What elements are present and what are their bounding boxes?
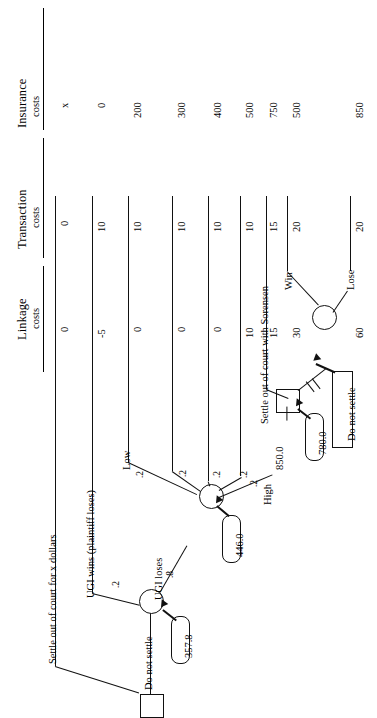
edge-prob-award-3: .2 (213, 471, 223, 478)
edge-prob-ugi-wins: .2 (112, 581, 122, 588)
column-header-transaction: Transaction (16, 189, 29, 249)
outcome-line-3 (128, 196, 129, 462)
pruned-label-leader (316, 363, 336, 373)
edge-prob-award-4: .2 (240, 471, 250, 478)
cell-linkage-9: 60 (355, 328, 366, 339)
outcome-line-6 (240, 196, 241, 476)
cell-insurance-4: 300 (177, 102, 188, 118)
edge-award-low (128, 462, 197, 495)
cell-insurance-6: 500 (245, 102, 256, 118)
header-rule-insurance (43, 8, 44, 130)
ev-leader-trial (163, 609, 177, 621)
column-header-linkage: Linkage (16, 298, 29, 340)
edge-label-award-high: High (263, 484, 274, 505)
prune-slash-2 (311, 378, 320, 389)
column-header-linkage-sub: costs (31, 308, 42, 329)
edge-label-root-do-not-settle: Do not settle (144, 636, 155, 690)
edge-settle-sorensen-stub (286, 407, 287, 421)
edge-label-sorensen-win: Win (284, 272, 295, 290)
cell-insurance-5: 400 (213, 102, 224, 118)
column-header-insurance: Insurance (16, 79, 29, 128)
ev-value-trial: 357.8 (184, 634, 195, 658)
cell-linkage-5: 0 (213, 327, 224, 332)
cell-insurance-2: 0 (97, 103, 108, 108)
edge-prob-award-1: .2 (136, 471, 146, 478)
prune-slash-1 (305, 381, 314, 392)
cell-transaction-9: 20 (355, 222, 366, 233)
cell-linkage-7: 15 (269, 328, 280, 339)
pruned-branch-label: Do not settle (347, 387, 358, 441)
outcome-line-8 (287, 196, 288, 271)
outcome-line-5 (208, 196, 209, 481)
cell-linkage-8: 30 (292, 328, 303, 339)
outcome-line-4 (172, 196, 173, 471)
edge-label-sorensen-lose: Lose (346, 270, 357, 290)
root-decision-node[interactable] (140, 694, 164, 718)
edge-sorensen-lose (333, 291, 349, 313)
edge-prob-award-2: .2 (179, 470, 189, 477)
cell-transaction-1: 0 (60, 221, 71, 226)
cell-insurance-1: x (60, 103, 71, 108)
cell-insurance-9: 850 (355, 102, 366, 118)
edge-prob-ugi-loses: .8 (166, 571, 176, 578)
edge-label-root-settle: Settle out of court for x dollars (48, 535, 59, 664)
edge-label-settle-sorensen: Settle out of court with Sorensen (260, 286, 271, 424)
cell-transaction-7: 15 (269, 222, 280, 233)
edge-ugi-wins (92, 593, 140, 606)
edge-label-award-low: Low (122, 451, 133, 470)
edge-value-high: 850.0 (275, 446, 286, 470)
ev-value-high-award: 780.0 (318, 431, 329, 455)
pruned-label-arrowhead (311, 353, 322, 364)
cell-transaction-3: 10 (133, 222, 144, 233)
cell-transaction-8: 20 (292, 222, 303, 233)
edge-label-ugi-wins: UGI wins (plaintiff loses) (86, 490, 97, 598)
cell-transaction-2: 10 (97, 222, 108, 233)
column-header-insurance-sub: costs (31, 96, 42, 117)
cell-transaction-6: 10 (245, 222, 256, 233)
ev-leader-award (216, 505, 229, 517)
edge-root-settle (55, 666, 139, 694)
cell-linkage-2: -5 (97, 329, 108, 338)
cell-linkage-1: 0 (60, 327, 71, 332)
cell-insurance-8: 500 (292, 102, 303, 118)
edge-label-ugi-loses: UGI loses (154, 558, 165, 600)
cell-insurance-7: 750 (269, 102, 280, 118)
cell-linkage-4: 0 (177, 327, 188, 332)
cell-transaction-5: 10 (213, 222, 224, 233)
ev-value-award: 446.0 (235, 533, 246, 557)
header-rule-transaction (43, 138, 44, 258)
header-rule-linkage (43, 266, 44, 372)
cell-transaction-4: 10 (177, 222, 188, 233)
column-header-transaction-sub: costs (31, 207, 42, 228)
cell-linkage-3: 0 (133, 327, 144, 332)
cell-linkage-6: 10 (245, 328, 256, 339)
outcome-line-9 (350, 196, 351, 271)
edge-prob-award-5: .2 (250, 480, 260, 487)
cell-insurance-3: 200 (133, 102, 144, 118)
